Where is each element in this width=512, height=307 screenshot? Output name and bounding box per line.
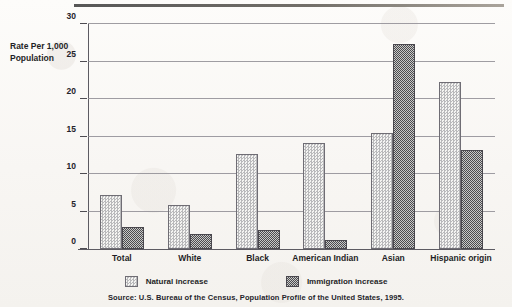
light-dither-swatch (125, 276, 138, 287)
bar-natural[interactable] (100, 195, 122, 249)
bar-natural[interactable] (236, 154, 258, 249)
x-tick-label: Asian (359, 253, 427, 263)
legend-label: Immigration increase (307, 277, 387, 286)
bar-natural[interactable] (371, 133, 393, 249)
x-tick-label: Black (224, 253, 292, 263)
bar-immigration[interactable] (190, 234, 212, 249)
source-caption: Source: U.S. Bureau of the Census, Popul… (0, 293, 512, 302)
y-tick-mark-0 (80, 248, 87, 249)
bar-immigration[interactable] (393, 44, 415, 249)
legend-item[interactable]: Immigration increase (286, 276, 387, 287)
legend-label: Natural increase (146, 277, 208, 286)
y-tick-label-0: 0 (71, 237, 76, 246)
bar-natural[interactable] (303, 143, 325, 250)
dark-dither-swatch (286, 276, 299, 287)
bar-group (292, 24, 360, 249)
bar-natural[interactable] (439, 82, 461, 249)
bar-group (156, 24, 224, 249)
plot-area: 051015202530 (88, 24, 495, 249)
y-tick-mark-5 (80, 211, 87, 212)
legend-item[interactable]: Natural increase (125, 276, 208, 287)
bar-chart: Rate Per 1,000 Population 051015202530 N… (0, 0, 512, 307)
bar-group (359, 24, 427, 249)
bar-immigration[interactable] (258, 230, 280, 250)
x-tick-label: Total (88, 253, 156, 263)
y-tick-label-30: 30 (67, 12, 76, 21)
x-tick-label: White (156, 253, 224, 263)
y-tick-label-10: 10 (67, 162, 76, 171)
y-tick-label-5: 5 (71, 199, 76, 208)
y-tick-mark-25 (80, 61, 87, 62)
bar-group (88, 24, 156, 249)
x-tick-label: American Indian (292, 253, 360, 263)
y-tick-mark-15 (80, 136, 87, 137)
x-tick-label: Hispanic origin (427, 253, 495, 263)
bar-immigration[interactable] (325, 240, 347, 249)
y-tick-label-15: 15 (67, 124, 76, 133)
bar-group (427, 24, 495, 249)
y-tick-label-25: 25 (67, 49, 76, 58)
bar-immigration[interactable] (461, 150, 483, 249)
bar-immigration[interactable] (122, 227, 144, 249)
bar-natural[interactable] (168, 205, 190, 249)
chart-legend: Natural increaseImmigration increase (0, 276, 512, 287)
y-tick-mark-20 (80, 98, 87, 99)
y-tick-mark-30 (80, 23, 87, 24)
y-tick-label-20: 20 (67, 87, 76, 96)
x-axis-line (78, 249, 495, 250)
y-tick-mark-10 (80, 173, 87, 174)
bar-group (224, 24, 292, 249)
y-axis-title: Rate Per 1,000 Population (10, 40, 88, 64)
